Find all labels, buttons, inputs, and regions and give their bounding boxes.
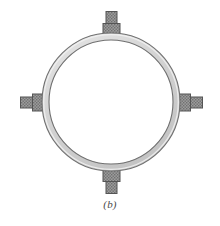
figure-container: (b) (0, 0, 220, 226)
left-bracket (21, 94, 44, 111)
ring (42, 33, 180, 171)
bottom-bracket-outer-block (106, 182, 117, 194)
top-bracket-outer-block (106, 12, 117, 24)
ring-body (46, 37, 177, 168)
bottom-bracket (103, 171, 120, 194)
right-bracket (180, 94, 203, 111)
top-bracket (103, 12, 120, 35)
figure-caption: (b) (0, 198, 220, 210)
right-bracket-inner-block (180, 94, 191, 111)
left-bracket-outer-block (21, 97, 33, 108)
ring-assembly-drawing (0, 0, 220, 226)
ring-inner-edge (49, 40, 173, 164)
bottom-bracket-inner-block (103, 171, 120, 182)
right-bracket-outer-block (191, 97, 203, 108)
